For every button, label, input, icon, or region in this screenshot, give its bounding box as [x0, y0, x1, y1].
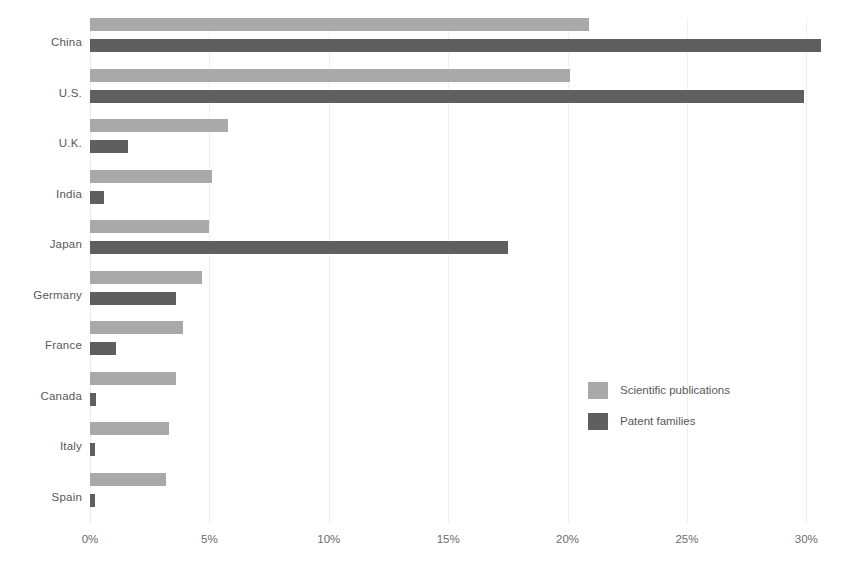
legend-label: Patent families [620, 415, 695, 427]
category-label-japan: Japan [4, 238, 82, 250]
category-label-india: India [4, 188, 82, 200]
bar-group [90, 271, 835, 322]
x-tick-label: 0% [82, 533, 99, 545]
bar-patent-families [90, 292, 176, 305]
bar-group [90, 321, 835, 372]
bar-patent-families [90, 443, 95, 456]
bar-group [90, 220, 835, 271]
bar-patent-families [90, 241, 508, 254]
bar-scientific-publications [90, 321, 183, 334]
category-label-spain: Spain [4, 491, 82, 503]
bar-scientific-publications [90, 69, 570, 82]
x-tick-label: 15% [437, 533, 460, 545]
bar-patent-families [90, 140, 128, 153]
category-label-italy: Italy [4, 440, 82, 452]
bar-patent-families [90, 39, 821, 52]
category-label-germany: Germany [4, 289, 82, 301]
x-tick-label: 10% [317, 533, 340, 545]
bar-group [90, 473, 835, 524]
x-tick-label: 5% [201, 533, 218, 545]
bar-chart: ChinaU.S.U.K.IndiaJapanGermanyFranceCana… [0, 0, 861, 586]
category-label-uk: U.K. [4, 137, 82, 149]
x-tick-label: 30% [795, 533, 818, 545]
x-tick-label: 25% [675, 533, 698, 545]
category-label-us: U.S. [4, 87, 82, 99]
bar-scientific-publications [90, 271, 202, 284]
bar-group [90, 119, 835, 170]
bar-scientific-publications [90, 170, 212, 183]
legend: Scientific publications Patent families [588, 381, 818, 443]
bar-patent-families [90, 191, 104, 204]
category-axis: ChinaU.S.U.K.IndiaJapanGermanyFranceCana… [0, 18, 82, 523]
bar-group [90, 170, 835, 221]
bar-patent-families [90, 393, 96, 406]
bar-scientific-publications [90, 422, 169, 435]
category-label-china: China [4, 36, 82, 48]
plot-area [90, 18, 835, 523]
legend-swatch-icon [588, 382, 608, 399]
bar-scientific-publications [90, 18, 589, 31]
legend-swatch-icon [588, 413, 608, 430]
bar-patent-families [90, 494, 95, 507]
bar-scientific-publications [90, 220, 209, 233]
category-label-canada: Canada [4, 390, 82, 402]
bar-group [90, 18, 835, 69]
x-axis: 0%5%10%15%20%25%30% [90, 527, 835, 553]
bar-patent-families [90, 90, 804, 103]
category-label-france: France [4, 339, 82, 351]
bar-group [90, 69, 835, 120]
bar-scientific-publications [90, 119, 228, 132]
x-tick-label: 20% [556, 533, 579, 545]
bar-scientific-publications [90, 372, 176, 385]
bar-scientific-publications [90, 473, 166, 486]
legend-item-scientific-publications: Scientific publications [588, 381, 818, 399]
bar-patent-families [90, 342, 116, 355]
legend-label: Scientific publications [620, 384, 730, 396]
legend-item-patent-families: Patent families [588, 412, 818, 430]
